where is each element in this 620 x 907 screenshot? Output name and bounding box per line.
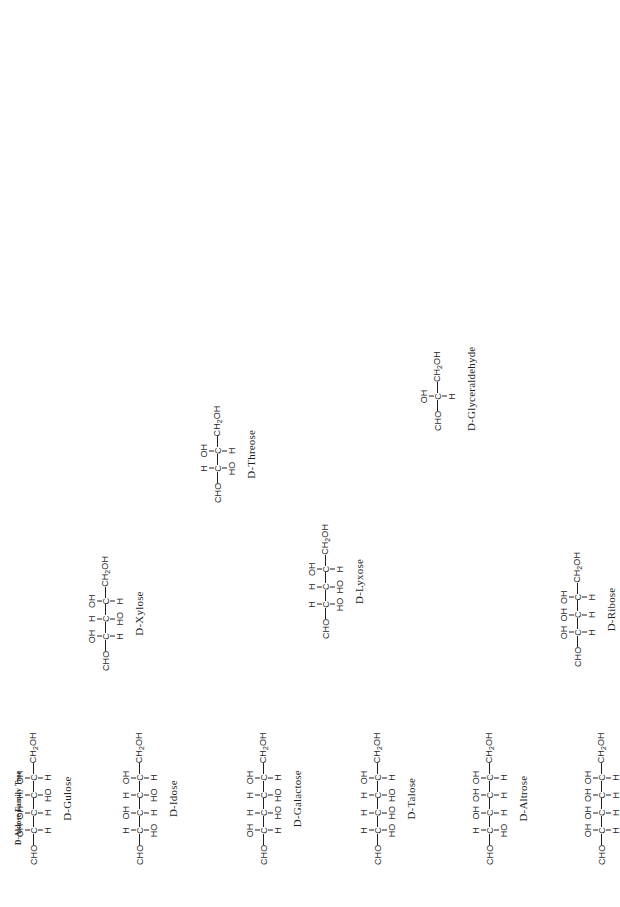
backbone-atom: CH2OH [320, 524, 331, 555]
substituent-right: H [121, 792, 131, 799]
bond-tick-up [481, 812, 486, 813]
stereocenter: OHCH [259, 827, 269, 834]
substituent-right: OH [15, 824, 25, 838]
sugar-name-label: D-Talose [405, 732, 417, 865]
substituent-right: OH [15, 806, 25, 820]
sugar-name-label: D-Glyceraldehyde [465, 347, 477, 431]
bond-tick-up [25, 830, 30, 831]
substituent-right: OH [359, 771, 369, 785]
substituent-left: H [587, 612, 597, 619]
bond-tick-up [255, 812, 260, 813]
bond-tick-up [481, 795, 486, 796]
stereocenter: OHCH [485, 792, 495, 799]
bond-tick-up [209, 450, 214, 451]
carbon-chain: CHOOHCHOHCHHCHOOHCHCH2OH [28, 732, 39, 865]
bond-tick-up [25, 812, 30, 813]
bond-tick-up [593, 812, 598, 813]
bond-tick-up [569, 614, 574, 615]
stereocenter: OHCH [29, 774, 39, 781]
backbone-bond [601, 816, 602, 827]
bond-tick-up [97, 636, 102, 637]
substituent-left: H [115, 633, 125, 640]
substituent-right: OH [87, 594, 97, 608]
substituent-left: HO [335, 580, 345, 594]
stereocenter: OHCH [135, 774, 145, 781]
substituent-left: H [149, 810, 159, 817]
backbone-bond [325, 572, 326, 583]
carbon-chain: CHOOHCHOHCHOHCHCH2OH [572, 552, 583, 667]
stereocenter: OHCH [321, 566, 331, 573]
backbone-atom: CH2OH [372, 732, 383, 763]
bond-tick-up [131, 777, 136, 778]
stereocenter: OHCH [373, 774, 383, 781]
backbone-atom: CHO [29, 845, 39, 865]
stereocenter: HCHO [135, 827, 145, 834]
stereocenter: HCHO [213, 465, 223, 472]
backbone-bond [263, 798, 264, 809]
backbone-atom: CHO [213, 483, 223, 503]
substituent-right: OH [15, 771, 25, 785]
stereocenter: OHCH [597, 827, 607, 834]
fischer-projection-d-threose: CHOHCHOOHCHCH2OHD-Threose [212, 406, 257, 503]
backbone-bond [217, 454, 218, 465]
backbone-bond [489, 781, 490, 792]
backbone-bond [139, 834, 140, 845]
stereocenter: HCHO [135, 792, 145, 799]
backbone-atom: CHO [259, 845, 269, 865]
stereocenter: OHCH [573, 611, 583, 618]
substituent-right: H [15, 792, 25, 799]
substituent-right: OH [419, 390, 429, 404]
backbone-atom: CH2OH [100, 556, 111, 587]
substituent-right: OH [471, 806, 481, 820]
substituent-left: H [611, 827, 620, 834]
backbone-bond [601, 834, 602, 845]
stereocenter: HCHO [321, 601, 331, 608]
backbone-bond [105, 587, 106, 598]
backbone-atom: CHO [433, 411, 443, 431]
bond-tick-up [209, 468, 214, 469]
substituent-left: HO [227, 462, 237, 476]
backbone-bond [577, 636, 578, 647]
backbone-bond [105, 622, 106, 633]
substituent-right: OH [559, 590, 569, 604]
substituent-right: OH [583, 824, 593, 838]
backbone-atom: CHO [321, 619, 331, 639]
stereocenter: OHCH [29, 827, 39, 834]
backbone-atom: CH2OH [572, 552, 583, 583]
aldose-family-tree: CHOOHCHCH2OHD-GlyceraldehydeCHOOHCHOHCHC… [0, 0, 620, 907]
carbon-chain: CHOOHCHHCHOHCHOOHCHCH2OH [258, 732, 269, 865]
substituent-right: H [471, 827, 481, 834]
backbone-bond [33, 781, 34, 792]
bond-tick-up [25, 777, 30, 778]
carbon-chain: CHOOHCHCH2OH [432, 347, 443, 431]
substituent-left: H [149, 774, 159, 781]
substituent-left: H [611, 810, 620, 817]
substituent-left: H [387, 774, 397, 781]
substituent-left: H [611, 774, 620, 781]
backbone-bond [377, 781, 378, 792]
substituent-right: H [307, 584, 317, 591]
backbone-bond [33, 834, 34, 845]
stereocenter: OHCH [485, 774, 495, 781]
bond-tick-up [593, 777, 598, 778]
substituent-right: H [245, 792, 255, 799]
substituent-left: H [43, 827, 53, 834]
substituent-left: H [43, 810, 53, 817]
substituent-right: H [121, 827, 131, 834]
backbone-bond [489, 816, 490, 827]
stereocenter: OHCH [259, 774, 269, 781]
substituent-right: H [199, 465, 209, 472]
carbon-chain: CHOHCHOOHCHCH2OH [212, 406, 223, 503]
backbone-bond [217, 436, 218, 447]
substituent-left: H [273, 827, 283, 834]
backbone-bond [377, 816, 378, 827]
backbone-bond [325, 608, 326, 619]
substituent-right: H [359, 827, 369, 834]
substituent-left: H [499, 792, 509, 799]
backbone-bond [217, 472, 218, 483]
substituent-right: H [245, 810, 255, 817]
stereocenter: OHCH [573, 629, 583, 636]
bond-tick-up [369, 777, 374, 778]
substituent-left: H [587, 629, 597, 636]
substituent-left: HO [499, 824, 509, 838]
